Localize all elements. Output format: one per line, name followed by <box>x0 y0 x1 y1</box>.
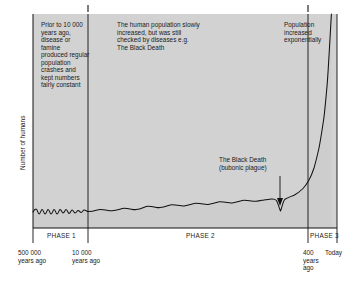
annotation-black-death: The Black Death (bubonic plague) <box>219 156 297 171</box>
annotation-phase2: The human population slowly increased, b… <box>117 21 237 51</box>
x-tick-label-500000: 500 000 years ago <box>18 249 62 264</box>
annotation-phase1: Prior to 10 000 years ago, disease or fa… <box>41 21 99 89</box>
phase-label-2: PHASE 2 <box>186 232 215 240</box>
x-tick-label-400: 400 years ago <box>303 249 321 272</box>
phase-label-1: PHASE 1 <box>47 232 76 240</box>
phase-label-3: PHASE 3 <box>310 232 339 240</box>
y-axis-label: Number of humans <box>19 116 26 170</box>
population-growth-chart: Number of humans Prior to 10 000 years a… <box>0 0 364 289</box>
annotation-phase3: Population increased exponentially <box>284 21 344 44</box>
x-tick-label-10000: 10 000 years ago <box>72 249 116 264</box>
x-tick-label-today: Today <box>325 249 361 257</box>
